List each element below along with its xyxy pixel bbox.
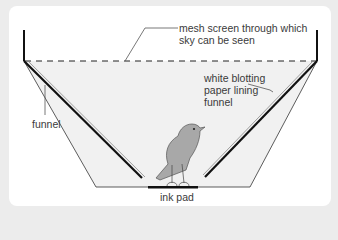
blot-label-line3: funnel <box>204 96 265 108</box>
funnel-label: funnel <box>32 118 61 130</box>
blot-label-line2: paper lining <box>204 84 265 96</box>
mesh-label-line2: sky can be seen <box>179 34 307 46</box>
mesh-screen-label: mesh screen through which sky can be see… <box>179 22 307 46</box>
mesh-label-line1: mesh screen through which <box>179 22 307 34</box>
blotting-paper-label: white blotting paper lining funnel <box>204 72 265 108</box>
mesh-leader-line <box>125 28 178 61</box>
ink-pad-label: ink pad <box>160 191 194 203</box>
blot-label-line1: white blotting <box>204 72 265 84</box>
ink-pad <box>148 186 198 189</box>
